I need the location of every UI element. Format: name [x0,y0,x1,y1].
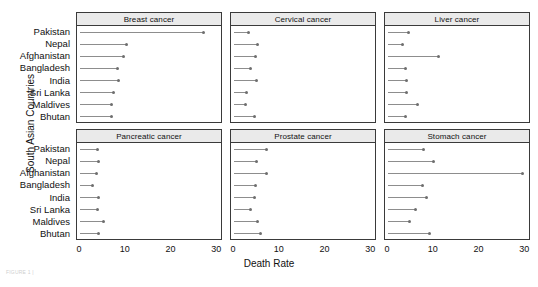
data-point[interactable] [102,220,105,223]
y-axis-tick [384,116,385,117]
plot-area [384,26,530,123]
data-point[interactable] [428,232,431,235]
data-point[interactable] [117,79,120,82]
data-point[interactable] [259,232,262,235]
x-axis-tick [279,239,280,240]
y-axis-tick [76,68,77,69]
data-point[interactable] [405,79,408,82]
data-point[interactable] [122,55,125,58]
data-point[interactable] [202,31,205,34]
y-axis-tick-label: Pakistan [34,144,70,154]
y-axis-tick [76,197,77,198]
data-point[interactable] [256,220,259,223]
data-point[interactable] [254,55,257,58]
data-point[interactable] [401,43,404,46]
lollipop-stem [80,56,123,57]
data-point[interactable] [265,172,268,175]
data-point[interactable] [416,103,419,106]
data-point[interactable] [255,79,258,82]
y-axis-tick-label: Bangladesh [20,64,70,74]
lollipop-stem [80,233,98,234]
plot-inner [385,26,529,122]
data-point[interactable] [97,232,100,235]
y-axis-tick [76,149,77,150]
plot-inner [77,143,221,239]
data-point[interactable] [249,67,252,70]
data-point[interactable] [405,91,408,94]
data-point[interactable] [116,67,119,70]
data-point[interactable] [244,103,247,106]
y-axis-tick [384,221,385,222]
x-axis-tick-label: 20 [319,243,329,255]
lollipop-stem [80,116,112,117]
facet-strip-label: Prostate cancer [230,129,376,143]
data-point[interactable] [91,184,94,187]
lollipop-stem [388,56,439,57]
y-axis-tick [230,173,231,174]
data-point[interactable] [110,115,113,118]
y-axis-tick [230,149,231,150]
y-axis-tick [230,197,231,198]
y-axis-tick-label: Bhutan [40,229,70,239]
data-point[interactable] [247,31,250,34]
data-point[interactable] [437,55,440,58]
y-axis-tick-label: Afghanistan [20,169,70,179]
data-point[interactable] [112,91,115,94]
data-point[interactable] [404,67,407,70]
data-point[interactable] [97,160,100,163]
data-point[interactable] [253,196,256,199]
data-point[interactable] [96,148,99,151]
y-axis-tick [76,161,77,162]
data-point[interactable] [521,172,524,175]
x-axis-tick-labels: 0102030 [76,243,222,255]
facet-panel: Stomach cancer [384,129,530,240]
data-point[interactable] [110,103,113,106]
data-point[interactable] [96,208,99,211]
lollipop-stem [80,68,117,69]
y-axis-tick-label: Nepal [45,39,70,49]
data-point[interactable] [407,31,410,34]
lollipop-stem [80,161,98,162]
y-axis-tick [230,68,231,69]
y-axis-tick [384,44,385,45]
lollipop-stem [388,116,406,117]
data-point[interactable] [408,220,411,223]
data-point[interactable] [245,91,248,94]
lollipop-stem [234,197,254,198]
x-axis-tick [433,239,434,240]
data-point[interactable] [414,208,417,211]
y-axis-tick-label: India [49,193,70,203]
data-point[interactable] [249,208,252,211]
plot-inner [231,143,375,239]
lollipop-stem [80,209,97,210]
facet-grid: Breast cancerCervical cancerLiver cancer… [76,12,530,240]
data-point[interactable] [432,160,435,163]
data-point[interactable] [265,148,268,151]
facet-panel: Prostate cancer [230,129,376,240]
y-axis-tick [76,56,77,57]
y-axis-tick [76,104,77,105]
y-axis-tick-label: Bhutan [40,112,70,122]
data-point[interactable] [425,196,428,199]
plot-area [230,26,376,123]
data-point[interactable] [97,196,100,199]
plot-area [384,143,530,240]
x-axis-tick-label: 0 [230,243,235,255]
y-axis-tick-label: India [49,76,70,86]
data-point[interactable] [404,115,407,118]
lollipop-stem [388,209,416,210]
y-axis-tick [76,116,77,117]
data-point[interactable] [95,172,98,175]
data-point[interactable] [422,148,425,151]
lollipop-stem [388,80,406,81]
data-point[interactable] [253,115,256,118]
y-axis-tick [76,173,77,174]
data-point[interactable] [256,43,259,46]
data-point[interactable] [421,184,424,187]
data-point[interactable] [255,160,258,163]
data-point[interactable] [125,43,128,46]
data-point[interactable] [254,184,257,187]
lollipop-stem [388,197,427,198]
y-axis-tick [230,92,231,93]
x-axis-tick-labels: 0102030 [230,243,376,255]
